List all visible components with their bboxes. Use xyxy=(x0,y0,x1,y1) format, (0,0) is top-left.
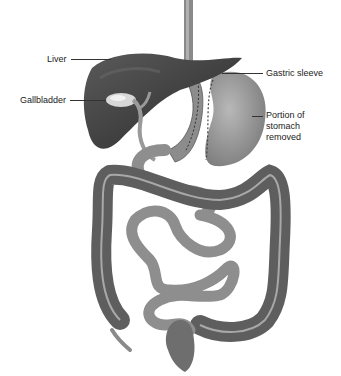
portion-removed-line-1: Portion of xyxy=(266,110,305,121)
portion-removed-label: Portion of stomach removed xyxy=(266,110,305,143)
portion-removed-line-3: removed xyxy=(266,132,305,143)
gallbladder-label: Gallbladder xyxy=(20,95,66,105)
removed-stomach-portion xyxy=(205,72,266,166)
portion-removed-line-2: stomach xyxy=(266,121,305,132)
liver-leader-line xyxy=(71,59,111,60)
portion-removed-leader-line xyxy=(252,116,263,117)
liver-label: Liver xyxy=(47,54,67,64)
small-intestine xyxy=(132,211,234,330)
gallbladder-leader-line xyxy=(70,100,106,101)
gastric-sleeve-leader-line xyxy=(222,73,263,74)
rectum xyxy=(166,320,195,372)
gastric-sleeve-label: Gastric sleeve xyxy=(266,68,323,78)
